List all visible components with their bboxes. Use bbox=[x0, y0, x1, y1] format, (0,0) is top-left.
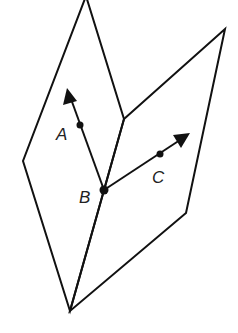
arrowhead-A-icon bbox=[63, 88, 77, 105]
label-B: B bbox=[79, 188, 90, 207]
label-C: C bbox=[152, 168, 165, 187]
label-A: A bbox=[55, 125, 67, 144]
right-half-plane bbox=[70, 29, 225, 311]
point-C bbox=[157, 151, 164, 158]
left-half-plane bbox=[23, 0, 124, 311]
dihedral-angle-diagram: A B C bbox=[0, 0, 238, 333]
point-A bbox=[77, 122, 84, 129]
ray-BA bbox=[71, 99, 104, 190]
arrowhead-C-icon bbox=[173, 133, 190, 148]
point-B bbox=[100, 186, 109, 195]
